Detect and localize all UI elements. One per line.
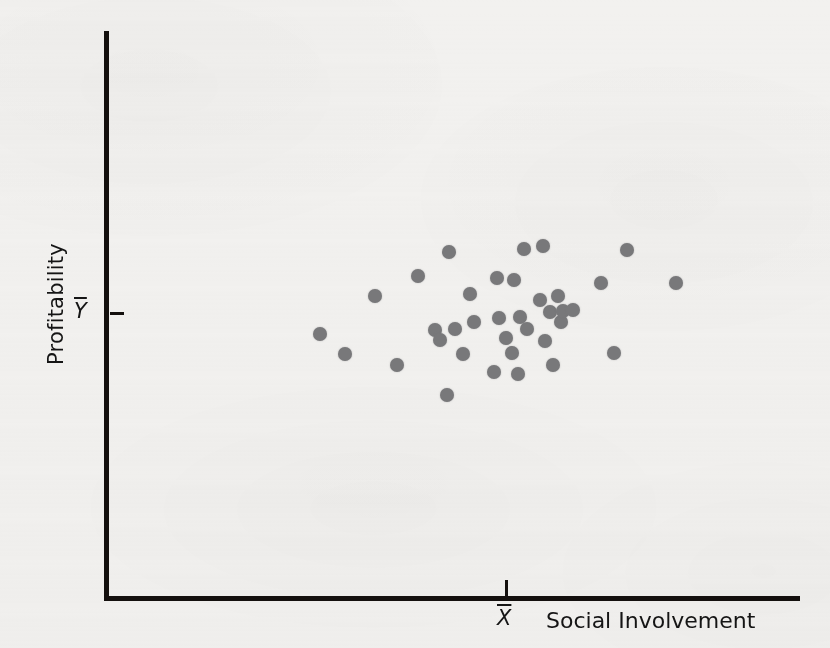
data-point: [511, 367, 525, 381]
data-point: [467, 315, 481, 329]
data-point: [411, 269, 425, 283]
data-point: [507, 273, 521, 287]
data-point: [463, 287, 477, 301]
data-point: [669, 276, 683, 290]
data-point: [546, 358, 560, 372]
data-point: [440, 388, 454, 402]
data-point: [433, 333, 447, 347]
data-point: [390, 358, 404, 372]
data-point: [607, 346, 621, 360]
data-point: [536, 239, 550, 253]
data-point: [538, 334, 552, 348]
scatter-plot-figure: Profitability Y X Social Involvement: [0, 0, 830, 648]
data-point: [490, 271, 504, 285]
data-point: [313, 327, 327, 341]
data-point: [566, 303, 580, 317]
data-point: [448, 322, 462, 336]
data-point: [520, 322, 534, 336]
scatter-points-layer: [0, 0, 830, 648]
data-point: [551, 289, 565, 303]
data-point: [456, 347, 470, 361]
data-point: [505, 346, 519, 360]
data-point: [492, 311, 506, 325]
data-point: [594, 276, 608, 290]
data-point: [620, 243, 634, 257]
data-point: [517, 242, 531, 256]
data-point: [442, 245, 456, 259]
data-point: [487, 365, 501, 379]
data-point: [368, 289, 382, 303]
data-point: [499, 331, 513, 345]
data-point: [533, 293, 547, 307]
data-point: [338, 347, 352, 361]
